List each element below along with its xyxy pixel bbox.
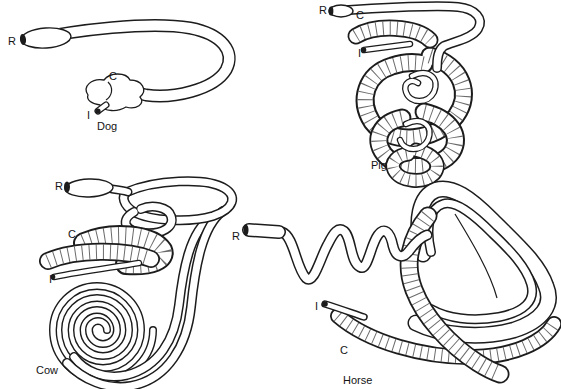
pig-rectum-tip: [329, 6, 334, 15]
pig-caption: Pig: [371, 159, 387, 171]
horse-ileum-tip: [322, 301, 328, 307]
horse-cecum-label: C: [340, 344, 348, 356]
diagram-canvas: R C I Dog R C I Pig: [0, 0, 561, 389]
horse-caption: Horse: [343, 374, 372, 386]
horse-inner-colon-fill: [428, 203, 532, 319]
dog-ileum-tip: [95, 108, 100, 113]
horse-figure: R I C Horse: [232, 189, 554, 386]
pig-figure: R C I Pig: [319, 4, 480, 180]
horse-rectum-label: R: [232, 230, 240, 242]
cow-rectum-bulb: [65, 178, 114, 198]
pig-ileum-tip: [362, 48, 367, 53]
cow-rectum-label: R: [55, 180, 63, 192]
comparative-intestine-diagram: R C I Dog R C I Pig: [0, 0, 561, 389]
dog-rectum-label: R: [8, 35, 16, 47]
cow-upper-loop-fill: [124, 181, 233, 220]
pig-ileum-label: I: [358, 47, 361, 59]
cow-rectum-tip: [64, 182, 70, 193]
pig-rectum-label: R: [319, 4, 327, 16]
cow-caption: Cow: [36, 364, 58, 376]
dog-cecum-label: C: [109, 70, 117, 82]
dog-rectum-bulb: [20, 26, 71, 49]
dog-caption: Dog: [97, 120, 117, 132]
cow-cecum-label: C: [68, 228, 76, 240]
cow-figure: R C I Cow: [36, 178, 232, 387]
pig-cecum-label: C: [356, 9, 364, 21]
cow-rectum-connector-fill: [112, 189, 128, 192]
horse-rectum-tip: [244, 225, 249, 236]
dog-figure: R C I Dog: [8, 26, 229, 132]
dog-ileum-label: I: [87, 109, 90, 121]
horse-ileum-label: I: [315, 300, 318, 312]
cow-ileum-label: I: [49, 273, 52, 285]
horse-rectum-bulb-fill: [249, 230, 279, 232]
